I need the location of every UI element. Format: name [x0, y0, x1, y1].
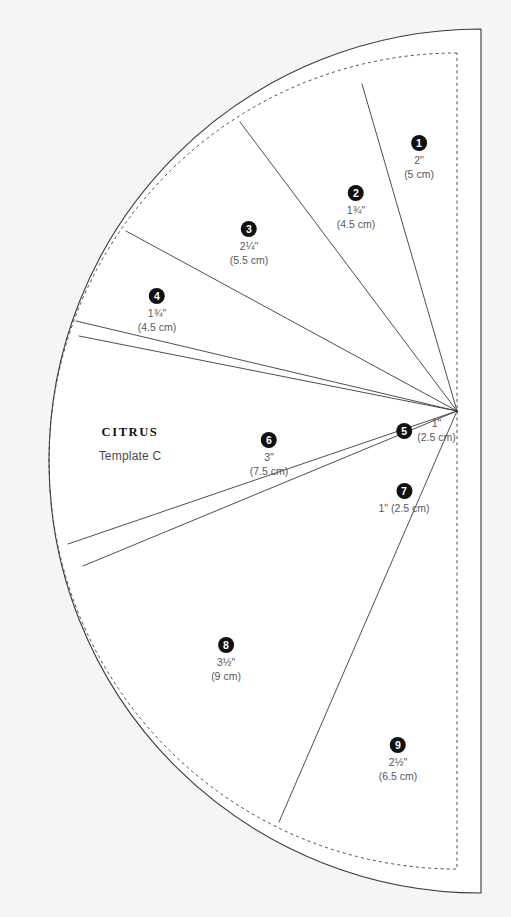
citrus-template-diagram: [0, 0, 511, 917]
template-canvas: 1 2" (5 cm) 2 1¾" (4.5 cm) 3 2¼" (5.5 cm…: [0, 0, 511, 917]
wedge-apex-point: [456, 410, 458, 412]
